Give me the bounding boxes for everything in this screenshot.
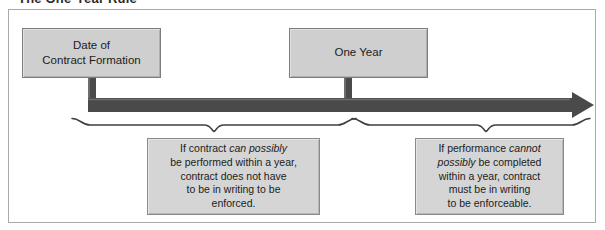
- callout-left-line-2: be performed within a year,: [170, 156, 297, 168]
- callout-right-line-3: within a year, contract: [439, 170, 541, 182]
- page-title: The One-Year Rule: [18, 0, 137, 6]
- callout-right-line-2-post: be completed: [475, 156, 541, 168]
- callout-left-text: If contract can possibly be performed wi…: [165, 142, 302, 210]
- callout-left-line-1-pre: If contract: [180, 142, 229, 154]
- callout-right-line-1-pre: If performance: [438, 142, 509, 154]
- callout-right-text: If performance cannot possibly be comple…: [433, 142, 547, 210]
- callout-right-line-1-emphasis: cannot: [509, 142, 541, 154]
- one-year-box: One Year: [289, 28, 428, 78]
- callout-right-line-2-emphasis: possibly: [438, 156, 476, 168]
- one-year-line-1: One Year: [335, 46, 383, 58]
- date-of-contract-formation-box: Date of Contract Formation: [22, 28, 161, 78]
- date-box-line-2: Contract Formation: [42, 54, 140, 66]
- callout-left-line-4: to be in writing to be: [187, 183, 281, 195]
- date-box-line-1: Date of: [73, 39, 110, 51]
- callout-left-line-1-emphasis: can possibly: [229, 142, 287, 154]
- callout-left-line-3: contract does not have: [180, 170, 286, 182]
- one-year-rule-diagram: The One-Year Rule Date of: [0, 0, 605, 230]
- callout-cannot-possibly-complete: If performance cannot possibly be comple…: [415, 138, 564, 215]
- callout-right-line-4: must be in writing: [449, 183, 531, 195]
- callout-can-possibly-perform: If contract can possibly be performed wi…: [147, 138, 320, 215]
- callout-left-line-5: enforced.: [212, 197, 256, 209]
- one-year-text: One Year: [329, 45, 389, 60]
- date-of-contract-formation-text: Date of Contract Formation: [36, 38, 146, 68]
- callout-right-line-5: to be enforceable.: [447, 197, 531, 209]
